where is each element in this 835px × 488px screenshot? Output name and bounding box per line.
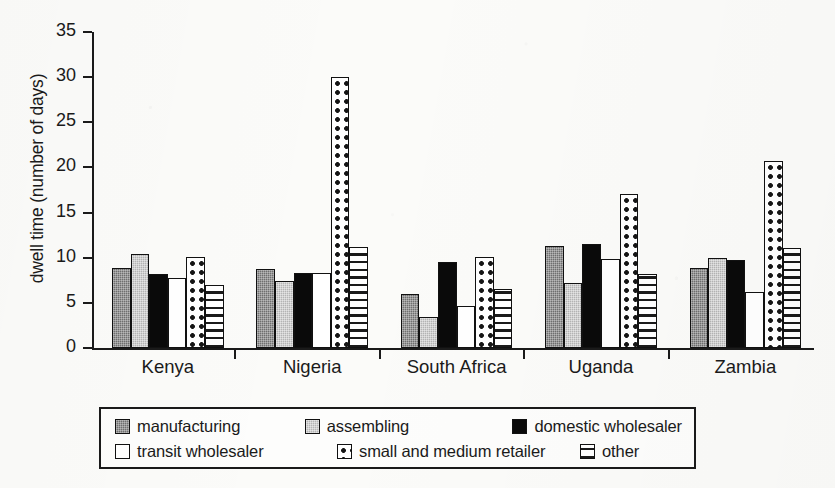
bar-domestic-wholesaler xyxy=(438,262,457,348)
legend-item[interactable]: transit wholesaler xyxy=(115,442,337,461)
y-tick: 10 xyxy=(83,257,92,259)
bar-other xyxy=(638,274,657,348)
bar-small-and-medium-retailer xyxy=(764,161,783,348)
bar-assembling xyxy=(275,281,294,348)
bar-group xyxy=(545,30,657,348)
legend-swatch-retailer-icon xyxy=(337,444,352,459)
bar-domestic-wholesaler xyxy=(149,274,168,348)
x-category-label: Kenya xyxy=(88,356,248,378)
y-axis-title: dwell time (number of days) xyxy=(27,14,48,344)
bar-group xyxy=(112,30,224,348)
bar-assembling xyxy=(131,254,150,348)
legend-label: transit wholesaler xyxy=(137,442,264,461)
y-tick-label: 30 xyxy=(56,65,76,85)
bar-transit-wholesaler xyxy=(312,273,331,348)
legend-swatch-manufacturing-icon xyxy=(115,419,130,434)
bar-small-and-medium-retailer xyxy=(331,77,350,348)
y-tick: 20 xyxy=(83,166,92,168)
legend-item[interactable]: small and medium retailer xyxy=(337,442,580,461)
bar-manufacturing xyxy=(545,246,564,348)
y-tick: 35 xyxy=(83,31,92,33)
bar-small-and-medium-retailer xyxy=(620,194,639,348)
bar-assembling xyxy=(419,317,438,348)
bar-other xyxy=(205,285,224,348)
y-tick-label: 10 xyxy=(56,246,76,266)
bar-group xyxy=(256,30,368,348)
x-category-label: South Africa xyxy=(377,356,537,378)
legend-row: manufacturingassemblingdomestic wholesal… xyxy=(115,414,682,439)
bar-assembling xyxy=(564,283,583,348)
bar-manufacturing xyxy=(256,269,275,348)
bar-other xyxy=(783,248,802,348)
bar-other xyxy=(349,247,368,348)
bar-manufacturing xyxy=(401,294,420,348)
y-tick: 30 xyxy=(83,76,92,78)
bar-other xyxy=(494,289,513,348)
legend-swatch-domestic-icon xyxy=(512,419,527,434)
y-tick: 5 xyxy=(83,302,92,304)
legend-swatch-other-icon xyxy=(580,444,595,459)
bar-assembling xyxy=(708,258,727,348)
legend-item[interactable]: manufacturing xyxy=(115,417,305,436)
legend-item[interactable]: domestic wholesaler xyxy=(512,417,682,436)
legend-swatch-assembling-icon xyxy=(305,419,320,434)
bar-domestic-wholesaler xyxy=(727,260,746,348)
y-tick: 15 xyxy=(83,212,92,214)
bar-domestic-wholesaler xyxy=(294,273,313,348)
legend-label: assembling xyxy=(327,417,409,436)
bar-chart: dwell time (number of days) 051015202530… xyxy=(0,0,835,488)
x-axis-line xyxy=(92,348,814,350)
bar-transit-wholesaler xyxy=(601,259,620,348)
y-tick-label: 35 xyxy=(56,20,76,40)
plot-area: 05101520253035 xyxy=(92,32,814,350)
y-tick-label: 5 xyxy=(66,291,76,311)
bar-domestic-wholesaler xyxy=(582,244,601,348)
legend-label: domestic wholesaler xyxy=(534,417,682,436)
y-tick: 25 xyxy=(83,121,92,123)
bar-manufacturing xyxy=(112,268,131,348)
legend-label: small and medium retailer xyxy=(359,442,545,461)
legend-item[interactable]: assembling xyxy=(305,417,513,436)
bar-manufacturing xyxy=(690,268,709,348)
bar-transit-wholesaler xyxy=(745,292,764,348)
y-tick-label: 0 xyxy=(66,336,76,356)
y-tick-label: 15 xyxy=(56,201,76,221)
chart-legend: manufacturingassemblingdomestic wholesal… xyxy=(99,407,696,469)
legend-row: transit wholesalersmall and medium retai… xyxy=(115,439,682,464)
y-tick-label: 25 xyxy=(56,110,76,130)
bar-group xyxy=(401,30,513,348)
y-axis-line xyxy=(92,32,94,350)
x-category-label: Nigeria xyxy=(232,356,392,378)
legend-label: other xyxy=(602,442,639,461)
bar-small-and-medium-retailer xyxy=(475,257,494,348)
bar-small-and-medium-retailer xyxy=(186,257,205,348)
bar-transit-wholesaler xyxy=(457,306,476,348)
bar-transit-wholesaler xyxy=(168,278,187,348)
legend-label: manufacturing xyxy=(137,417,240,436)
x-category-label: Zambia xyxy=(665,356,825,378)
legend-swatch-transit-icon xyxy=(115,444,130,459)
x-category-label: Uganda xyxy=(521,356,681,378)
bar-group xyxy=(690,30,802,348)
y-tick: 0 xyxy=(83,347,92,349)
legend-item[interactable]: other xyxy=(580,442,639,461)
y-tick-label: 20 xyxy=(56,155,76,175)
